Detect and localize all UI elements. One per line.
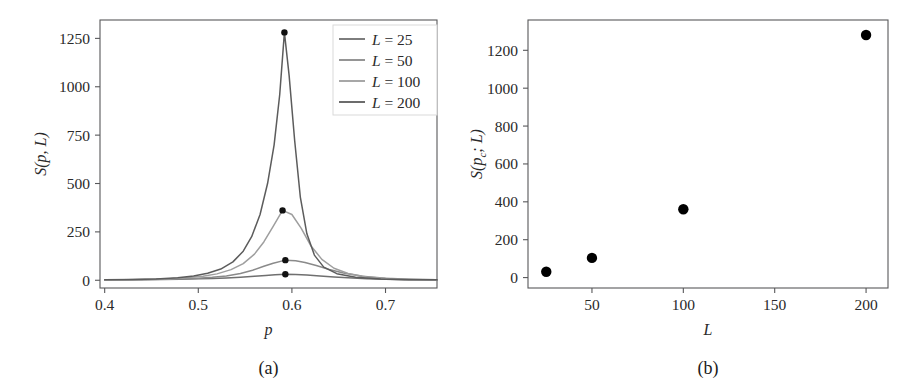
y-tick-label-b: 400 — [495, 193, 519, 210]
curve-50 — [105, 260, 437, 280]
y-tick-label-b: 1000 — [487, 80, 518, 97]
peak-marker-100 — [279, 207, 285, 213]
peak-marker-25 — [282, 271, 288, 277]
y-tick-label-b: 800 — [495, 118, 519, 135]
y-tick-label-a: 750 — [67, 127, 91, 144]
x-tick-label-b: 200 — [854, 296, 878, 313]
svg-text:S(pc; L): S(pc; L) — [468, 129, 488, 179]
x-tick-label-a: 0.5 — [189, 296, 209, 313]
x-tick-label-b: 50 — [584, 296, 600, 313]
plot-frame-b — [528, 20, 888, 288]
y-tick-label-b: 0 — [510, 269, 518, 286]
x-axis-label-b: L — [703, 321, 713, 338]
y-tick-label-a: 500 — [67, 175, 91, 192]
y-tick-label-a: 1000 — [59, 78, 90, 95]
y-tick-label-a: 1250 — [59, 30, 90, 47]
legend-label-25: L = 25 — [371, 31, 413, 48]
caption-a: (a) — [259, 358, 279, 379]
chart-a-svg: 0250500750100012500.40.50.60.7pS(p, L)L … — [0, 0, 460, 384]
scatter-point — [541, 267, 551, 277]
y-axis-label-b: S(pc; L) — [468, 129, 488, 179]
y-tick-label-a: 0 — [82, 272, 90, 289]
y-tick-label-a: 250 — [67, 223, 91, 240]
y-tick-label-b: 1200 — [487, 42, 518, 59]
scatter-point — [678, 204, 688, 214]
x-tick-label-a: 0.7 — [376, 296, 396, 313]
y-axis-label-a: S(p, L) — [32, 132, 50, 176]
peak-marker-200 — [281, 29, 287, 35]
curve-100 — [105, 210, 437, 279]
y-tick-label-b: 600 — [495, 155, 519, 172]
x-tick-label-a: 0.4 — [95, 296, 115, 313]
caption-b: (b) — [698, 358, 719, 379]
scatter-point — [861, 30, 871, 40]
peak-marker-50 — [282, 257, 288, 263]
legend-label-200: L = 200 — [371, 94, 421, 111]
panel-b: 02004006008001000120050100150200LS(pc; L… — [460, 0, 917, 384]
x-tick-label-b: 150 — [763, 296, 787, 313]
legend-label-100: L = 100 — [371, 73, 421, 90]
x-tick-label-b: 100 — [672, 296, 696, 313]
legend-label-50: L = 50 — [371, 52, 413, 69]
scatter-point — [587, 253, 597, 263]
panel-a: 0250500750100012500.40.50.60.7pS(p, L)L … — [0, 0, 460, 384]
x-tick-label-a: 0.6 — [282, 296, 302, 313]
x-axis-label-a: p — [264, 321, 273, 339]
chart-b-svg: 02004006008001000120050100150200LS(pc; L… — [460, 0, 917, 384]
figure-container: 0250500750100012500.40.50.60.7pS(p, L)L … — [0, 0, 917, 384]
y-tick-label-b: 200 — [495, 231, 519, 248]
